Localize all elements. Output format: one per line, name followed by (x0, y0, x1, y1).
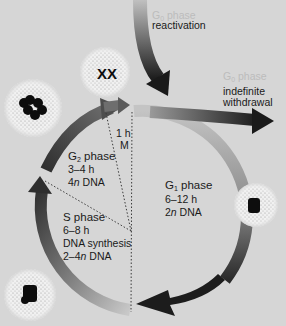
nucleus-s (4, 269, 56, 321)
g1-arrowhead (136, 274, 225, 316)
s-arrowhead (28, 176, 52, 194)
g2-phase-duration: 3–4 h (68, 163, 94, 176)
diagram-frame: X X G0 phase reac (0, 0, 286, 326)
m-arrowhead (118, 97, 130, 114)
nucleus-mitosis: X X (80, 47, 130, 97)
m-phase-name: M (120, 139, 129, 152)
nucleus-g2 (4, 79, 62, 137)
s-phase-detail: DNA synthesis (63, 237, 131, 250)
divider-m-g1 (131, 112, 132, 312)
s-phase-duration: 6–8 h (63, 224, 89, 237)
g1-phase-duration: 6–12 h (165, 193, 197, 206)
reactivation-label: reactivation (152, 19, 206, 32)
cell-cycle-graphic: X X (0, 0, 286, 326)
nucleus-g1 (234, 183, 278, 227)
g1-phase-dna: 2n DNA (165, 206, 202, 219)
g0-withdrawal-faint-label: G0 phase (223, 70, 267, 83)
g1-phase-name: G1 phase (165, 179, 212, 192)
withdrawal-arrowhead (252, 108, 274, 134)
svg-text:X: X (97, 65, 107, 82)
g2-phase-name: G2 phase (68, 150, 115, 163)
s-phase-dna: 2–4n DNA (63, 250, 111, 263)
m-arrow (104, 105, 120, 107)
svg-text:X: X (107, 65, 117, 82)
withdrawal-label-line2: withdrawal (223, 96, 273, 109)
s-phase-name: S phase (63, 211, 105, 224)
g2-phase-dna: 4n DNA (68, 176, 105, 189)
withdrawal-arrow (150, 112, 255, 120)
